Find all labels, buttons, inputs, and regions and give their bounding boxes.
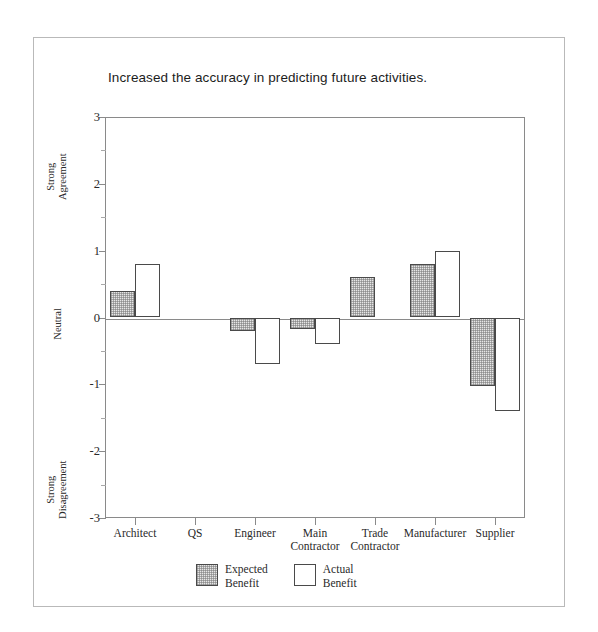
bar-actual bbox=[435, 251, 460, 318]
y-axis-caption: StrongAgreement bbox=[45, 117, 69, 237]
y-axis-tick bbox=[99, 518, 106, 519]
x-axis-tick bbox=[495, 518, 496, 525]
y-axis-minor-tick bbox=[101, 217, 106, 218]
page-title: Increased the accuracy in predicting fut… bbox=[108, 70, 427, 85]
x-axis-tick bbox=[375, 518, 376, 525]
y-axis-tick-label: -3 bbox=[78, 511, 100, 526]
legend-label: Actual Benefit bbox=[323, 563, 357, 590]
x-axis-tick bbox=[255, 518, 256, 525]
y-axis-minor-tick bbox=[101, 284, 106, 285]
y-axis-tick bbox=[99, 384, 106, 385]
y-axis-minor-tick bbox=[101, 485, 106, 486]
bar-actual bbox=[315, 318, 340, 345]
y-axis-tick-label: 3 bbox=[78, 110, 100, 125]
bar-expected bbox=[290, 318, 315, 329]
y-axis-minor-tick bbox=[101, 351, 106, 352]
legend-label: Expected Benefit bbox=[225, 563, 268, 590]
x-axis-tick bbox=[315, 518, 316, 525]
y-axis-tick bbox=[99, 184, 106, 185]
bar-expected bbox=[350, 277, 375, 317]
bar-actual bbox=[135, 264, 160, 317]
x-axis-tick bbox=[195, 518, 196, 525]
bar-actual bbox=[495, 318, 520, 412]
bar-expected bbox=[110, 291, 135, 318]
legend-item: Actual Benefit bbox=[294, 563, 357, 590]
y-axis-tick bbox=[99, 451, 106, 452]
y-axis-caption: Neutral bbox=[52, 284, 64, 364]
y-axis-tick bbox=[99, 251, 106, 252]
y-axis-tick-label: 2 bbox=[78, 176, 100, 191]
y-axis-minor-tick bbox=[101, 418, 106, 419]
y-axis-tick bbox=[99, 117, 106, 118]
y-axis-tick bbox=[99, 318, 106, 319]
x-axis-category-label: Supplier bbox=[452, 527, 538, 540]
bar-expected bbox=[410, 264, 435, 317]
legend-swatch-expected bbox=[196, 564, 218, 586]
y-axis-tick-label: 1 bbox=[78, 243, 100, 258]
y-axis-tick-label: 0 bbox=[78, 310, 100, 325]
bar-actual bbox=[255, 318, 280, 365]
y-axis-tick-label: -1 bbox=[78, 377, 100, 392]
x-axis-tick bbox=[135, 518, 136, 525]
y-axis-caption: StrongDisagreement bbox=[45, 430, 69, 550]
chart-page: Increased the accuracy in predicting fut… bbox=[0, 0, 598, 632]
chart-legend: Expected BenefitActual Benefit bbox=[196, 563, 357, 590]
legend-item: Expected Benefit bbox=[196, 563, 268, 590]
x-axis-tick bbox=[435, 518, 436, 525]
bar-expected bbox=[230, 318, 255, 331]
y-axis-tick-label: -2 bbox=[78, 444, 100, 459]
bar-expected bbox=[470, 318, 495, 387]
y-axis-minor-tick bbox=[101, 150, 106, 151]
legend-swatch-actual bbox=[294, 564, 316, 586]
